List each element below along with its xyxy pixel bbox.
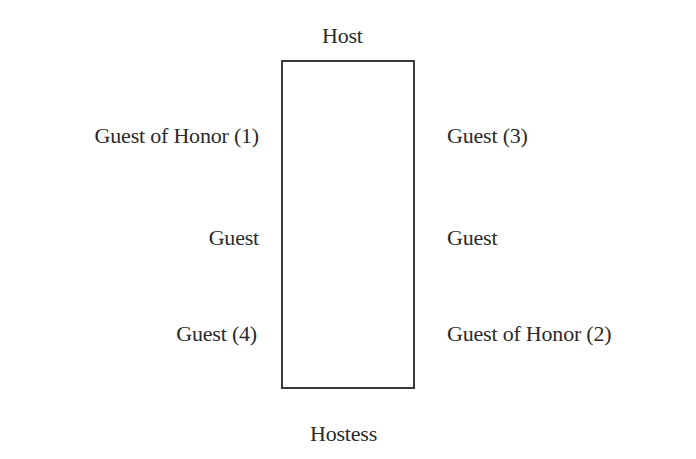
seat-right-1: Guest (3) [447,123,528,149]
seat-hostess: Hostess [310,421,377,447]
seat-left-3: Guest (4) [176,321,257,347]
seat-right-3: Guest of Honor (2) [447,321,611,347]
seat-left-2: Guest [209,225,259,251]
dining-table [281,60,415,389]
seat-left-1: Guest of Honor (1) [95,123,259,149]
seat-right-2: Guest [447,225,497,251]
seat-host: Host [322,23,363,49]
